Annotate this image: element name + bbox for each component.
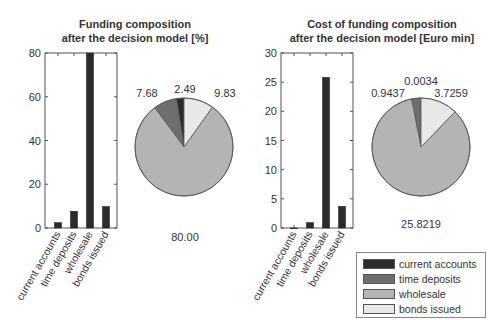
bar [70, 211, 77, 228]
bar [306, 222, 313, 228]
y-tick-label: 10 [265, 164, 277, 176]
y-tick-label: 40 [29, 135, 41, 147]
pie-label: 0.9437 [371, 87, 405, 99]
pie-label: 2.49 [174, 83, 195, 95]
pie-label: 0.0034 [404, 75, 438, 87]
y-tick-label: 60 [29, 91, 41, 103]
pie-label: 7.68 [136, 87, 157, 99]
legend-item-current-accounts: current accounts [363, 258, 477, 270]
pie-label: 9.83 [214, 87, 235, 99]
bar [338, 206, 345, 228]
legend-label: time deposits [399, 273, 461, 285]
y-tick-label: 5 [271, 193, 277, 205]
y-tick-label: 80 [29, 47, 41, 59]
pie-label: 3.7259 [434, 87, 468, 99]
y-tick-label: 0 [35, 222, 41, 234]
y-tick-label: 30 [265, 47, 277, 59]
y-tick-label: 20 [29, 178, 41, 190]
legend: current accounts time deposits wholesale… [356, 252, 486, 318]
bar [290, 228, 297, 229]
y-tick-label: 25 [265, 76, 277, 88]
legend-label: wholesale [399, 288, 446, 300]
pie-label: 25.8219 [401, 218, 441, 230]
legend-item-bonds-issued: bonds issued [363, 303, 461, 315]
y-tick-label: 15 [265, 135, 277, 147]
pie-label: 80.00 [171, 231, 199, 243]
legend-label: bonds issued [399, 303, 461, 315]
bar [54, 223, 61, 228]
bar-axes-box [281, 53, 353, 228]
bar-axes-box [45, 53, 117, 228]
bar [322, 77, 329, 228]
swatch-time-deposits [363, 274, 395, 284]
swatch-current-accounts [363, 259, 395, 269]
swatch-wholesale [363, 289, 395, 299]
legend-item-time-deposits: time deposits [363, 273, 461, 285]
legend-label: current accounts [399, 258, 477, 270]
y-tick-label: 20 [265, 105, 277, 117]
legend-item-wholesale: wholesale [363, 288, 446, 300]
bar [86, 53, 93, 228]
y-tick-label: 0 [271, 222, 277, 234]
swatch-bonds-issued [363, 304, 395, 314]
bar [102, 206, 109, 228]
